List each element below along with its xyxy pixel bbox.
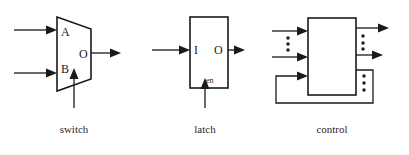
control-output-wire-bottom xyxy=(356,51,383,60)
latch-port-label-i: I xyxy=(194,43,198,57)
control-input-wire-bottom xyxy=(272,53,308,62)
control-block[interactable]: control xyxy=(272,18,389,135)
switch-port-label-b: B xyxy=(61,62,69,76)
control-feedback-loop-wire xyxy=(276,70,373,103)
control-input-ellipsis-icon xyxy=(286,36,289,51)
switch-control-wire xyxy=(70,68,79,108)
switch-output-wire xyxy=(91,49,121,58)
control-input-wire-top xyxy=(272,27,308,36)
control-output-ellipsis-icon xyxy=(361,34,364,50)
control-feedback-ellipsis-icon xyxy=(362,74,365,91)
switch-port-label-a: A xyxy=(61,25,70,39)
control-caption: control xyxy=(316,123,347,135)
circuit-diagram-figure: A B O switch I xyxy=(0,0,409,155)
switch-port-label-o: O xyxy=(79,47,88,61)
latch-input-wire xyxy=(152,46,190,55)
control-body[interactable] xyxy=(308,18,356,95)
latch-caption: latch xyxy=(194,123,216,135)
latch-port-label-o: O xyxy=(214,43,223,57)
switch-input-a-wire xyxy=(14,26,57,35)
switch-caption: switch xyxy=(60,123,89,135)
latch-output-wire xyxy=(228,46,245,55)
diagram-canvas: A B O switch I xyxy=(0,0,409,155)
latch-block[interactable]: I O en latch xyxy=(152,17,245,135)
control-output-wire-top xyxy=(356,24,389,33)
switch-block[interactable]: A B O switch xyxy=(14,17,121,135)
switch-input-b-wire xyxy=(14,69,57,78)
